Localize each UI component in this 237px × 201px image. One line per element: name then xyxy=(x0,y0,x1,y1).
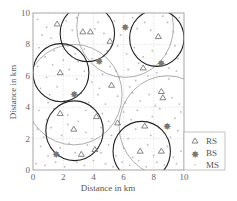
ms-point xyxy=(61,135,63,137)
ms-point xyxy=(127,138,129,140)
x-tick-label: 4 xyxy=(91,172,96,182)
ms-point xyxy=(55,161,57,163)
ms-point xyxy=(151,116,153,118)
ms-point xyxy=(126,53,128,55)
bs-points: ✸✸✸✸✸✸ xyxy=(52,22,172,160)
y-tick-label: 4 xyxy=(26,102,31,112)
ms-point xyxy=(38,47,40,49)
ms-point xyxy=(123,111,125,113)
ms-point xyxy=(83,48,85,50)
bs-point: ✸ xyxy=(70,89,78,100)
ms-point xyxy=(120,34,122,36)
ms-point xyxy=(127,69,129,71)
ms-point xyxy=(156,161,158,163)
rs-point xyxy=(137,148,143,153)
x-tick-label: 0 xyxy=(31,172,36,182)
ms-point xyxy=(47,155,49,157)
ms-point xyxy=(46,76,48,78)
ms-point xyxy=(166,22,168,24)
rs-point xyxy=(87,29,93,34)
ms-point xyxy=(132,17,134,19)
ms-point xyxy=(153,155,155,157)
ms-point xyxy=(41,34,43,36)
rs-point xyxy=(78,151,84,156)
ms-point xyxy=(65,20,67,22)
ms-point xyxy=(139,100,141,102)
ms-point xyxy=(142,56,144,58)
ms-point xyxy=(177,130,179,132)
rs-point xyxy=(142,123,148,128)
ms-point xyxy=(138,62,140,64)
ms-point xyxy=(100,152,102,154)
rs-point xyxy=(158,148,164,153)
ms-point xyxy=(85,131,87,133)
bs-point: ✸ xyxy=(52,149,60,160)
y-tick-label: 6 xyxy=(26,71,31,81)
ms-point xyxy=(46,26,48,28)
ms-point xyxy=(136,109,138,111)
ms-point xyxy=(56,86,58,88)
ms-point xyxy=(76,78,78,80)
x-axis-label: Distance in km xyxy=(81,183,136,193)
ms-point xyxy=(109,65,111,67)
ms-point xyxy=(91,58,93,60)
ms-point xyxy=(76,161,78,163)
ms-point xyxy=(88,102,90,104)
ms-point xyxy=(50,127,52,129)
ms-point xyxy=(74,152,76,154)
y-tick-label: 8 xyxy=(26,39,31,49)
ms-point xyxy=(68,69,70,71)
rs-point xyxy=(71,126,77,131)
ms-point xyxy=(132,157,134,159)
rs-point xyxy=(57,70,63,75)
x-tick-label: 10 xyxy=(180,172,190,182)
ms-point xyxy=(106,50,108,52)
ms-point xyxy=(136,28,138,30)
ms-point xyxy=(168,67,170,69)
ms-point xyxy=(180,150,182,152)
dot-icon xyxy=(194,164,196,166)
ms-point xyxy=(97,94,99,96)
ms-point xyxy=(132,92,134,94)
ms-point xyxy=(44,164,46,166)
ms-point xyxy=(115,155,117,157)
ms-point xyxy=(102,113,104,115)
ms-point xyxy=(163,164,165,166)
ms-point xyxy=(180,111,182,113)
ms-point xyxy=(111,135,113,137)
ms-point xyxy=(151,50,153,52)
ms-point xyxy=(105,103,107,105)
ms-point xyxy=(85,109,87,111)
ms-point xyxy=(64,166,66,168)
ms-point xyxy=(114,20,116,22)
ms-point xyxy=(99,87,101,89)
ms-point xyxy=(150,135,152,137)
ms-point xyxy=(91,138,93,140)
y-tick-label: 10 xyxy=(21,8,31,18)
coverage-scatter-chart: ✸✸✸✸✸✸ 0246810 0246810 Distance in km Di… xyxy=(0,0,237,201)
ms-point xyxy=(62,59,64,61)
bs-point: ✸ xyxy=(163,121,171,132)
ms-point xyxy=(130,119,132,121)
ms-point xyxy=(147,144,149,146)
ms-point xyxy=(77,120,79,122)
y-axis-ticks: 0246810 xyxy=(21,8,31,175)
ms-point xyxy=(117,45,119,47)
ms-point xyxy=(179,103,181,105)
ms-point xyxy=(52,64,54,66)
ms-point xyxy=(35,163,37,165)
ms-point xyxy=(121,161,123,163)
ms-point xyxy=(156,72,158,74)
ms-point xyxy=(37,18,39,20)
ms-point xyxy=(148,94,150,96)
ms-point xyxy=(47,102,49,104)
y-tick-label: 2 xyxy=(26,134,31,144)
ms-point xyxy=(50,37,52,39)
bs-point: ✸ xyxy=(95,56,103,67)
ms-point xyxy=(159,108,161,110)
ms-point xyxy=(177,58,179,60)
ms-point xyxy=(154,105,156,107)
ms-point xyxy=(179,17,181,19)
ms-point xyxy=(105,163,107,165)
rs-point xyxy=(160,95,166,100)
